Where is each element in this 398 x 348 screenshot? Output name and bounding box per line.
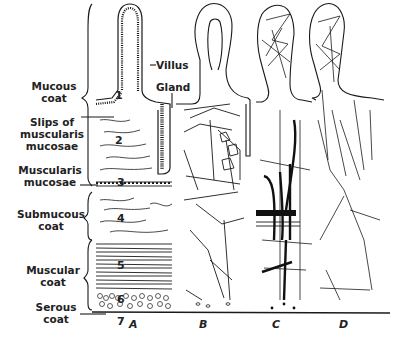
- slips-line1: Slips of: [20, 116, 84, 128]
- mucous-coat-label: Mucous coat: [26, 80, 82, 104]
- villus-label: Villus: [156, 59, 188, 71]
- panel-label-b: B: [199, 318, 207, 331]
- mucous-coat-line2: coat: [26, 92, 82, 104]
- layer-number-6: 6: [117, 293, 125, 306]
- slips-line3: mucosae: [20, 140, 84, 152]
- panel-label-c: C: [272, 318, 280, 331]
- muscular-coat-line2: coat: [22, 276, 84, 288]
- muscular-coat-line1: Muscular: [22, 264, 84, 276]
- slips-line2: muscularis: [20, 128, 84, 140]
- submucous-coat-label: Submucous coat: [16, 208, 86, 232]
- muscularis-mucosae-line1: Muscularis: [16, 164, 84, 176]
- serous-coat-label: Serous coat: [30, 301, 82, 325]
- layer-number-2: 2: [115, 134, 123, 147]
- slips-muscularis-mucosae-label: Slips of muscularis mucosae: [20, 116, 84, 152]
- muscular-coat-label: Muscular coat: [22, 264, 84, 288]
- panel-label-a: A: [129, 318, 138, 331]
- muscularis-mucosae-line2: mucosae: [16, 176, 84, 188]
- muscular-coat-brace: [84, 240, 92, 310]
- layer-number-3: 3: [117, 176, 125, 189]
- mucous-coat-line1: Mucous: [26, 80, 82, 92]
- panel-label-d: D: [339, 318, 348, 331]
- gland-label: Gland: [156, 81, 190, 93]
- layer-number-1: 1: [115, 89, 123, 102]
- layer-number-7: 7: [117, 315, 125, 328]
- submucous-coat-line1: Submucous: [16, 208, 86, 220]
- submucous-coat-line2: coat: [16, 220, 86, 232]
- layer-number-5: 5: [117, 259, 125, 272]
- serous-coat-line1: Serous: [30, 301, 82, 313]
- layer-number-4: 4: [117, 212, 125, 225]
- muscularis-mucosae-label: Muscularis mucosae: [16, 164, 84, 188]
- intestinal-wall-diagram: Mucous coat Slips of muscularis mucosae …: [0, 0, 398, 348]
- mucous-coat-brace: [82, 4, 92, 186]
- serous-coat-line2: coat: [30, 313, 82, 325]
